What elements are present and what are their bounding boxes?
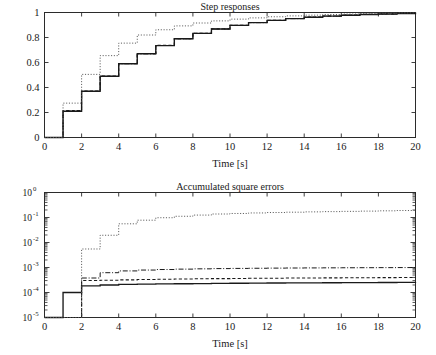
x-tick-label: 2	[79, 321, 84, 332]
plot-frame	[45, 13, 416, 138]
y-tick-label: 0.8	[26, 32, 39, 43]
x-tick-label: 10	[225, 141, 236, 152]
figure-svg: Step responses02468101214161820Time [s]0…	[0, 0, 436, 355]
trace-dotted	[45, 13, 416, 138]
plot-title: Accumulated square errors	[176, 181, 284, 192]
traces	[45, 210, 416, 317]
panel-accumulated-square-errors: Accumulated square errors024681012141618…	[23, 181, 421, 349]
trace-dash-dot	[45, 13, 416, 138]
x-tick-label: 18	[373, 321, 384, 332]
y-tick-exponent: -1	[33, 210, 39, 217]
y-tick-label: 10	[23, 263, 33, 273]
x-tick-label: 8	[190, 141, 195, 152]
panel-step-responses: Step responses02468101214161820Time [s]0…	[26, 1, 420, 169]
y-tick-exponent: -4	[33, 285, 39, 292]
x-tick-label: 0	[42, 321, 47, 332]
y-tick-label: 0	[34, 132, 39, 143]
y-tick-label: 10	[23, 238, 33, 248]
plot-frame	[45, 193, 416, 318]
x-tick-label: 14	[299, 141, 310, 152]
x-tick-label: 14	[299, 321, 310, 332]
y-tick-label: 1	[34, 7, 39, 18]
y-tick-label: 10	[23, 313, 33, 323]
x-tick-label: 18	[373, 141, 384, 152]
x-tick-label: 12	[262, 321, 273, 332]
trace-dotted	[45, 210, 416, 317]
y-axis: 00.20.40.60.81	[26, 7, 415, 143]
x-tick-label: 16	[336, 141, 347, 152]
x-tick-label: 10	[225, 321, 236, 332]
traces	[45, 13, 416, 138]
x-tick-label: 20	[410, 321, 421, 332]
y-tick-exponent: -3	[33, 260, 39, 267]
y-tick-label: 0.2	[26, 107, 39, 118]
x-axis-title: Time [s]	[212, 338, 248, 349]
x-tick-label: 6	[153, 141, 158, 152]
x-tick-label: 4	[116, 141, 122, 152]
x-axis: 02468101214161820	[42, 193, 421, 332]
y-tick-label: 10	[23, 213, 33, 223]
x-tick-label: 8	[190, 321, 195, 332]
x-tick-label: 6	[153, 321, 158, 332]
y-tick-label: 10	[23, 288, 33, 298]
trace-solid	[45, 13, 416, 138]
trace-dash-dot	[45, 268, 416, 318]
x-axis-title: Time [s]	[212, 158, 248, 169]
y-tick-exponent: 0	[33, 185, 37, 192]
y-tick-exponent: -2	[33, 235, 39, 242]
x-axis: 02468101214161820	[42, 13, 421, 152]
x-tick-label: 16	[336, 321, 347, 332]
x-tick-label: 4	[116, 321, 122, 332]
x-tick-label: 12	[262, 141, 273, 152]
figure-container: Step responses02468101214161820Time [s]0…	[0, 0, 436, 355]
y-tick-label: 0.6	[26, 57, 39, 68]
x-tick-label: 20	[410, 141, 421, 152]
y-tick-label: 10	[23, 188, 33, 198]
trace-solid	[45, 282, 416, 317]
y-tick-label: 0.4	[26, 82, 40, 93]
x-tick-label: 0	[42, 141, 47, 152]
trace-dashed	[45, 13, 416, 138]
y-tick-exponent: -5	[33, 310, 39, 317]
plot-title: Step responses	[200, 1, 259, 12]
x-tick-label: 2	[79, 141, 84, 152]
